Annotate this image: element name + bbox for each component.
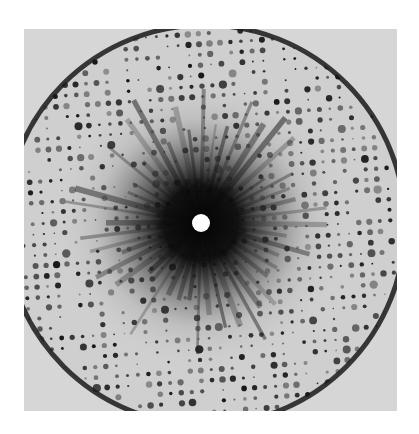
diffraction-photo xyxy=(24,29,397,411)
beam-stop-hole xyxy=(192,214,210,232)
diffraction-pattern-graphic xyxy=(24,29,397,411)
